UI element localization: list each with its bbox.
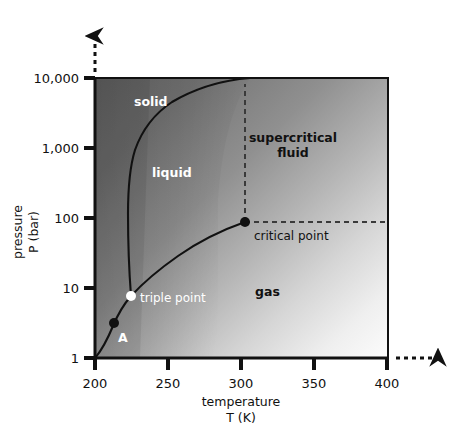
x-axis-tick-labels: 200 250 300 350 400 — [83, 376, 400, 391]
y-tick-label-10: 10 — [62, 281, 79, 296]
critical-point-marker — [240, 217, 250, 227]
region-label-solid: solid — [134, 94, 168, 109]
triple-point-label: triple point — [140, 291, 206, 305]
x-tick-label-400: 400 — [375, 376, 400, 391]
region-label-supercritical-line2: fluid — [277, 145, 308, 160]
x-tick-label-200: 200 — [83, 376, 108, 391]
point-a-marker — [109, 318, 119, 328]
y-axis-title: pressure P (bar) — [10, 205, 41, 259]
y-tick-label-1000: 1,000 — [42, 141, 79, 156]
critical-point-label: critical point — [254, 229, 329, 243]
x-axis-title: temperature T (K) — [202, 394, 281, 425]
region-label-liquid: liquid — [152, 165, 192, 180]
x-axis-title-line2: T (K) — [225, 410, 256, 425]
point-a-label: A — [118, 330, 128, 345]
x-axis-title-line1: temperature — [202, 394, 281, 409]
plot-area — [95, 78, 388, 358]
y-tick-label-10000: 10,000 — [34, 71, 80, 86]
x-tick-label-300: 300 — [229, 376, 254, 391]
y-axis-title-line1: pressure — [10, 205, 25, 259]
phase-diagram-svg: solid liquid gas supercritical fluid cri… — [0, 0, 471, 435]
y-tick-label-1: 1 — [71, 351, 79, 366]
x-tick-label-250: 250 — [156, 376, 181, 391]
x-axis-ticks — [95, 358, 387, 370]
region-label-supercritical-line1: supercritical — [249, 130, 337, 145]
triple-point-marker — [126, 291, 136, 301]
phase-diagram-figure: solid liquid gas supercritical fluid cri… — [0, 0, 471, 435]
x-tick-label-350: 350 — [302, 376, 327, 391]
y-axis-ticks — [84, 78, 95, 358]
y-tick-label-100: 100 — [54, 211, 79, 226]
y-axis-title-line2: P (bar) — [26, 211, 41, 253]
region-label-gas: gas — [255, 284, 280, 299]
